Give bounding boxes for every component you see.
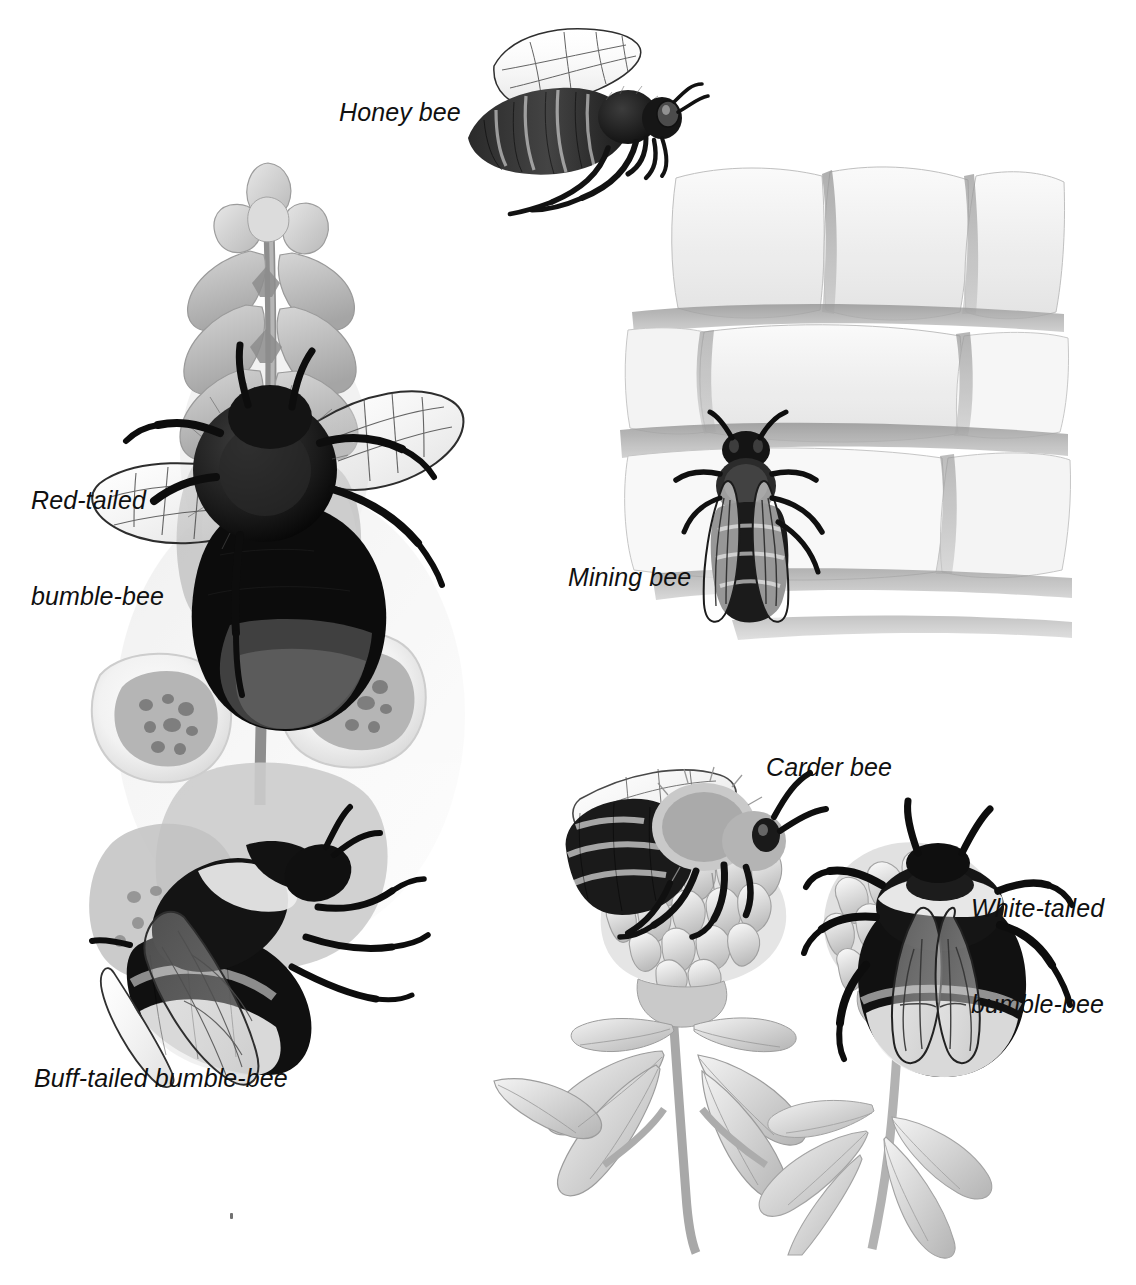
label-red-tailed-bumble-bee: Red-tailed bumble-bee: [31, 420, 164, 676]
label-mining-bee: Mining bee: [568, 561, 691, 593]
label-line: bumble-bee: [971, 988, 1104, 1020]
label-white-tailed-bumble-bee: White-tailed bumble-bee: [971, 828, 1104, 1084]
label-honey-bee: Honey bee: [339, 96, 461, 128]
honey-bee-head: [642, 97, 682, 139]
carder-bee-head: [722, 811, 786, 871]
label-line: bumble-bee: [31, 580, 164, 612]
clover-leaves-left: [494, 1018, 806, 1200]
bees-illustration-plate: Honey bee Red-tailed bumble-bee Mining b…: [0, 0, 1136, 1285]
paper-speck: [230, 1213, 233, 1219]
label-line: White-tailed: [971, 892, 1104, 924]
label-line: Red-tailed: [31, 484, 164, 516]
label-buff-tailed-bumble-bee: Buff-tailed bumble-bee: [34, 1062, 288, 1094]
foxglove-buds: [214, 163, 328, 254]
label-carder-bee: Carder bee: [766, 751, 892, 783]
bumble-bee-head: [228, 385, 312, 449]
